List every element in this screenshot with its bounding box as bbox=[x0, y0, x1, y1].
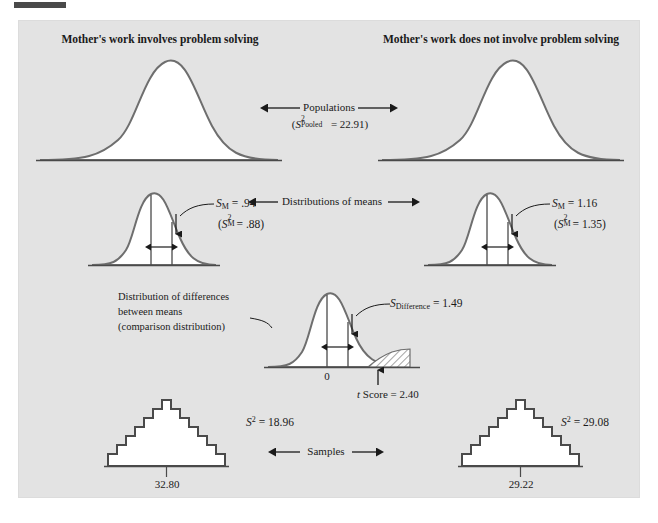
dist-means-right-sd-value: = 1.16 bbox=[568, 197, 598, 209]
sample-left-mean-label: 32.80 bbox=[142, 478, 192, 491]
populations-connector-label: Populations bbox=[295, 101, 363, 114]
distributions-of-means-connector-label: Distributions of means bbox=[276, 195, 388, 208]
figure-root: Mother's work involves problem solving M… bbox=[0, 0, 658, 523]
dist-means-left-variance-value: = .88) bbox=[237, 218, 265, 230]
corner-marker-bar bbox=[14, 2, 66, 8]
sample-right-mean-label: 29.22 bbox=[496, 478, 546, 491]
pooled-variance-value: = 22.91) bbox=[331, 118, 368, 130]
t-score-label: t Score = 2.40 bbox=[357, 388, 419, 401]
dist-means-left-variance-label: (S2M= .88) bbox=[218, 216, 264, 231]
sample-left-variance-label: S2 = 18.96 bbox=[246, 415, 294, 429]
sample-right-variance-exponent: 2 bbox=[567, 415, 571, 424]
pooled-variance-subscript: Pooled bbox=[301, 120, 322, 129]
comparison-mean-tick-label: 0 bbox=[318, 370, 336, 383]
dist-means-right-variance-label: (S2M= 1.35) bbox=[554, 216, 606, 231]
dist-means-right-sd-label: SM = 1.16 bbox=[552, 196, 597, 212]
dist-means-right-sd-subscript: M bbox=[558, 202, 565, 211]
population-title-right: Mother's work does not involve problem s… bbox=[370, 32, 632, 46]
population-title-left: Mother's work involves problem solving bbox=[38, 32, 282, 46]
sample-right-variance-label: S2 = 29.08 bbox=[561, 415, 609, 429]
dist-means-left-sd-value: = .94 bbox=[232, 197, 256, 209]
dist-means-left-variance-subscript: M bbox=[228, 219, 235, 229]
comparison-label-line3: (comparison distribution) bbox=[118, 320, 254, 335]
samples-connector-label: Samples bbox=[298, 445, 354, 458]
pooled-variance-label: (S2Pooled= 22.91) bbox=[274, 117, 386, 131]
sample-right-variance-value: = 29.08 bbox=[574, 416, 609, 428]
dist-means-right-variance-subscript: M bbox=[564, 219, 571, 229]
dist-means-right-variance-value: = 1.35) bbox=[573, 218, 606, 230]
sample-left-variance-exponent: 2 bbox=[252, 415, 256, 424]
comparison-sd-subscript: Difference bbox=[396, 302, 430, 311]
dist-means-left-sd-label: SM = .94 bbox=[216, 196, 256, 212]
comparison-label-line1: Distribution of differences bbox=[118, 290, 254, 305]
comparison-sd-value: = 1.49 bbox=[433, 297, 463, 309]
t-score-text: Score = 2.40 bbox=[363, 388, 419, 400]
t-score-symbol: t bbox=[357, 388, 360, 400]
comparison-sd-label: SDifference = 1.49 bbox=[390, 296, 462, 312]
comparison-label-line2: between means bbox=[118, 305, 254, 320]
figure-caption bbox=[232, 512, 652, 523]
figure-panel bbox=[18, 20, 640, 498]
sample-left-variance-value: = 18.96 bbox=[259, 416, 294, 428]
dist-means-left-sd-subscript: M bbox=[222, 202, 229, 211]
comparison-distribution-label-block: Distribution of differences between mean… bbox=[118, 290, 254, 335]
